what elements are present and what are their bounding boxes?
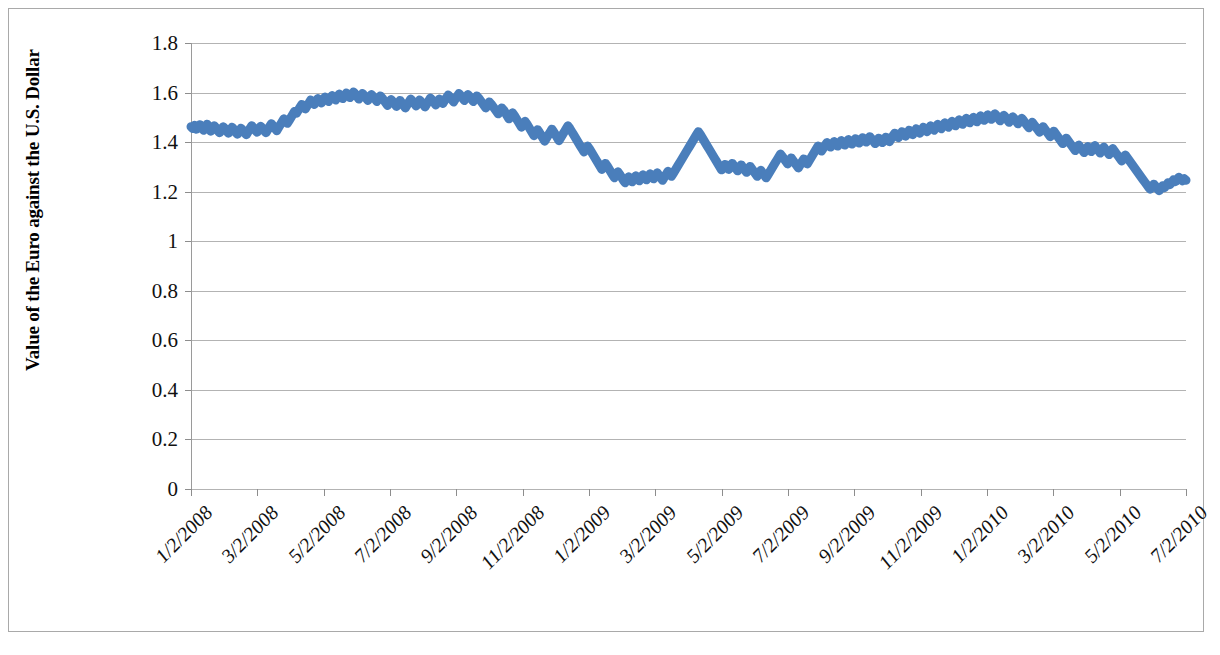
- x-tick-mark: [1120, 489, 1121, 496]
- x-tick-label: 1/2/2009: [549, 501, 616, 568]
- x-tick-label: 9/2/2008: [416, 501, 483, 568]
- x-tick-mark: [390, 489, 391, 496]
- y-tick-label: 1.4: [152, 132, 178, 153]
- x-tick-label: 1/2/2008: [151, 501, 218, 568]
- x-tick-label: 3/2/2008: [217, 501, 284, 568]
- y-tick-label: 1.2: [152, 181, 178, 202]
- x-tick-label: 5/2/2010: [1079, 501, 1146, 568]
- x-tick-label: 7/2/2009: [748, 501, 815, 568]
- x-tick-label: 1/2/2010: [947, 501, 1014, 568]
- x-tick-label: 3/2/2009: [615, 501, 682, 568]
- x-tick-mark: [854, 489, 855, 496]
- y-tick-label: 1: [168, 231, 179, 252]
- x-tick-mark: [722, 489, 723, 496]
- x-tick-mark: [1053, 489, 1054, 496]
- y-tick-label: 1.6: [152, 82, 178, 103]
- x-tick-label: 5/2/2009: [681, 501, 748, 568]
- plot-inner: 1.81.61.41.210.80.60.40.20 1/2/20083/2/2…: [191, 43, 1186, 489]
- x-tick-mark: [257, 489, 258, 496]
- x-tick-mark: [655, 489, 656, 496]
- x-tick-label: 7/2/2010: [1146, 501, 1213, 568]
- y-tick-label: 0.2: [152, 429, 178, 450]
- chart-container: Value of the Euro against the U.S. Dolla…: [8, 8, 1204, 632]
- x-tick-label: 5/2/2008: [283, 501, 350, 568]
- plot-area: 1.81.61.41.210.80.60.40.20 1/2/20083/2/2…: [191, 43, 1186, 489]
- x-tick-label: 9/2/2009: [814, 501, 881, 568]
- x-tick-mark: [456, 489, 457, 496]
- y-tick-label: 0.4: [152, 379, 178, 400]
- x-tick-mark: [1186, 489, 1187, 496]
- x-tick-mark: [589, 489, 590, 496]
- x-tick-mark: [523, 489, 524, 496]
- x-tick-mark: [191, 489, 192, 496]
- x-tick-mark: [987, 489, 988, 496]
- x-tick-label: 11/2/2008: [476, 501, 549, 574]
- y-tick-label: 0.6: [152, 330, 178, 351]
- x-tick-label: 11/2/2009: [874, 501, 947, 574]
- y-tick-label: 0.8: [152, 280, 178, 301]
- gridline: [191, 489, 1186, 490]
- x-tick-label: 7/2/2008: [350, 501, 417, 568]
- data-series-eur-usd: [191, 43, 1186, 489]
- x-tick-mark: [324, 489, 325, 496]
- x-tick-mark: [788, 489, 789, 496]
- x-tick-label: 3/2/2010: [1013, 501, 1080, 568]
- x-tick-mark: [921, 489, 922, 496]
- y-tick-label: 0: [168, 479, 179, 500]
- y-axis-title: Value of the Euro against the U.S. Dolla…: [20, 71, 46, 371]
- y-tick-label: 1.8: [152, 33, 178, 54]
